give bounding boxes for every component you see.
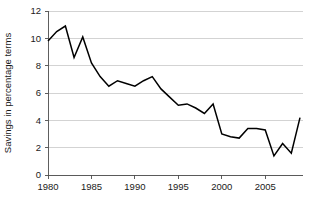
y-tick-label: 8 [36,60,41,71]
y-tick-label: 10 [30,33,41,44]
x-tick-label: 1990 [124,181,145,192]
y-axis-title: Savings in percentage terms [2,33,13,154]
x-tick-label: 1995 [168,181,189,192]
y-tick-label: 0 [36,169,41,180]
x-tick-label: 2005 [255,181,276,192]
y-tick-label: 6 [36,87,41,98]
x-tick-label: 2000 [211,181,232,192]
x-tick-label: 1980 [37,181,58,192]
savings-line-chart-figure: 024681012 198019851990199520002005 Savin… [0,0,312,207]
chart-canvas: 024681012 198019851990199520002005 Savin… [0,0,312,207]
y-tick-label: 2 [36,142,41,153]
x-tick-label: 1985 [81,181,102,192]
y-tick-label: 12 [30,5,41,16]
y-tick-label: 4 [36,115,41,126]
